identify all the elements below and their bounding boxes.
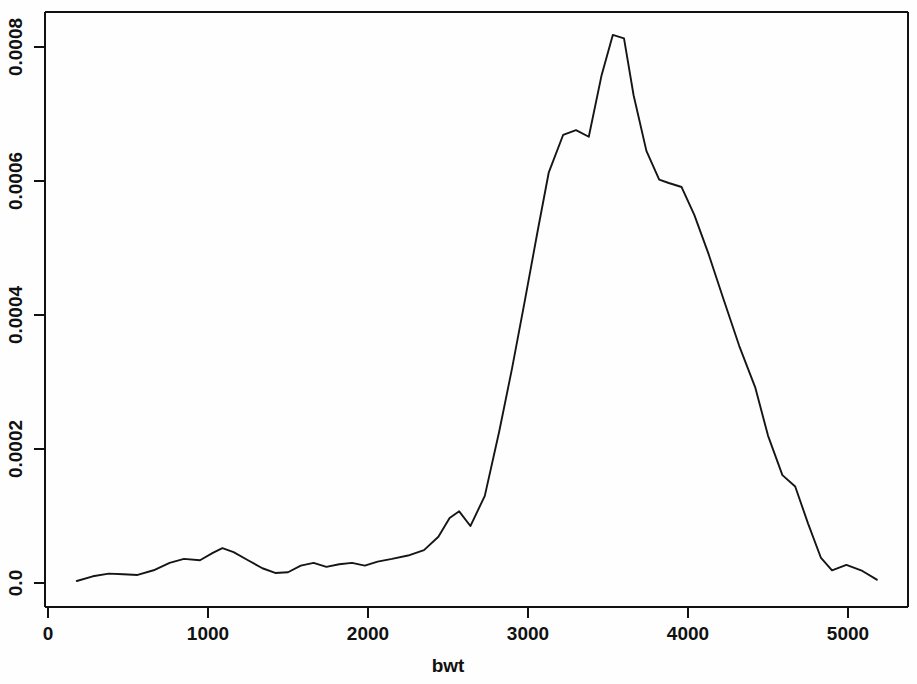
x-tick-label-5000: 5000 xyxy=(827,623,869,644)
x-axis-ticks xyxy=(48,607,848,618)
plot-frame xyxy=(45,12,908,607)
y-tick-label-0.0006: 0.0006 xyxy=(5,152,26,210)
y-axis-ticks xyxy=(34,47,45,583)
density-curve xyxy=(77,35,877,581)
x-axis-tick-labels: 0 1000 2000 3000 4000 5000 xyxy=(43,623,869,644)
plot-canvas: 0.0008 0.0006 0.0004 0.0002 0.0 0 1000 2… xyxy=(0,0,917,684)
x-tick-label-4000: 4000 xyxy=(667,623,709,644)
x-tick-label-0: 0 xyxy=(43,623,54,644)
density-plot-figure: 0.0008 0.0006 0.0004 0.0002 0.0 0 1000 2… xyxy=(0,0,917,684)
x-tick-label-1000: 1000 xyxy=(187,623,229,644)
y-axis-tick-labels: 0.0008 0.0006 0.0004 0.0002 0.0 xyxy=(5,18,26,596)
y-tick-label-0.0002: 0.0002 xyxy=(5,420,26,478)
y-tick-label-0.0008: 0.0008 xyxy=(5,18,26,76)
x-tick-label-2000: 2000 xyxy=(347,623,389,644)
x-tick-label-3000: 3000 xyxy=(507,623,549,644)
x-axis-title: bwt xyxy=(432,655,465,676)
y-tick-label-0.0: 0.0 xyxy=(5,570,26,596)
y-tick-label-0.0004: 0.0004 xyxy=(5,286,26,345)
